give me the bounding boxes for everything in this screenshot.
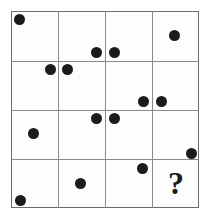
dot-r3c3: [109, 113, 120, 124]
dot-r2c4: [156, 96, 167, 107]
grid-line-horizontal-2: [11, 110, 199, 111]
dot-r4c2: [75, 178, 86, 189]
dot-r4c3: [137, 163, 148, 174]
dot-r1c3: [109, 47, 120, 58]
dot-r2c2: [62, 64, 73, 75]
dot-r1c2: [91, 47, 102, 58]
dot-r2c1: [45, 64, 56, 75]
grid-line-horizontal-1: [11, 61, 199, 62]
dot-r3c1: [28, 128, 39, 139]
grid-line-horizontal-3: [11, 159, 199, 160]
dot-r4c1: [15, 195, 26, 206]
dot-r1c4: [169, 30, 180, 41]
dot-pattern-puzzle: ?: [0, 0, 210, 219]
dot-r1c1: [14, 14, 25, 25]
dot-r3c2: [91, 113, 102, 124]
dot-r3c4: [186, 148, 197, 159]
dot-r2c3: [138, 96, 149, 107]
question-mark[interactable]: ?: [160, 167, 192, 199]
